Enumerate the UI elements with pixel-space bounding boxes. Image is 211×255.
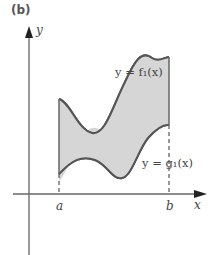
region-diagram: y x a b y = f₁(x) y = g₁(x) — [0, 0, 211, 255]
upper-curve-label: y = f₁(x) — [114, 65, 163, 79]
y-axis-arrow-icon — [25, 26, 33, 38]
tick-b-label: b — [166, 199, 174, 213]
tick-a-label: a — [56, 199, 63, 213]
x-axis-label: x — [194, 198, 201, 212]
lower-curve-label: y = g₁(x) — [141, 156, 193, 170]
x-axis-arrow-icon — [194, 190, 207, 198]
y-axis-label: y — [35, 23, 43, 37]
